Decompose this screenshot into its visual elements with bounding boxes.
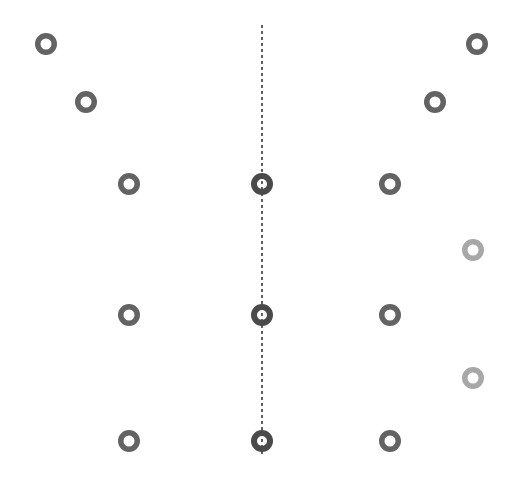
figure-canvas	[0, 0, 514, 480]
figure-background	[0, 0, 514, 480]
ring-diagram-svg	[0, 0, 514, 480]
